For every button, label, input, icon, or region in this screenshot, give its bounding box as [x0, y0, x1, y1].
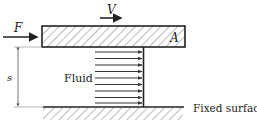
- moving-plate: [42, 26, 185, 47]
- fluid-label: Fluid: [64, 72, 93, 85]
- fixed-surface: [43, 107, 184, 120]
- gap-dimension: [14, 47, 43, 107]
- fluid-shear-diagram: A F V Fluid s Fixed surface: [0, 0, 257, 132]
- velocity-profile: [95, 47, 144, 107]
- area-label: A: [169, 31, 179, 45]
- fixed-surface-label: Fixed surface: [193, 102, 257, 114]
- gap-label: s: [7, 72, 12, 83]
- force-label: F: [13, 21, 23, 35]
- velocity-label: V: [107, 3, 117, 17]
